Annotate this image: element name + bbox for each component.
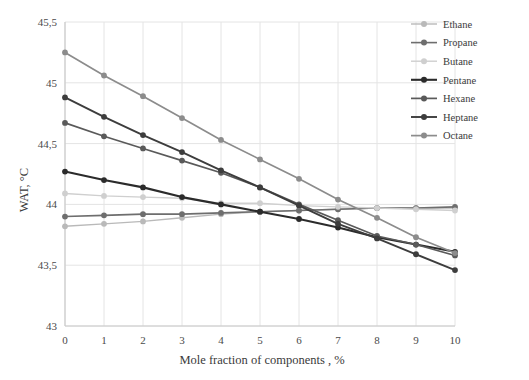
legend-swatch-marker bbox=[421, 114, 427, 120]
data-point bbox=[413, 242, 419, 248]
data-point bbox=[62, 94, 68, 100]
legend-label: Hexane bbox=[443, 93, 475, 104]
y-tick-label: 44 bbox=[46, 198, 58, 210]
data-point bbox=[257, 200, 263, 206]
data-point bbox=[257, 209, 263, 215]
x-tick-label: 5 bbox=[257, 334, 263, 346]
x-axis-title: Mole fraction of components , % bbox=[179, 353, 344, 367]
data-point bbox=[140, 219, 146, 225]
legend-label: Propane bbox=[443, 37, 478, 48]
data-point bbox=[413, 251, 419, 257]
legend-swatch-marker bbox=[421, 40, 427, 46]
y-axis-title: WAT, °C bbox=[17, 168, 31, 212]
legend-swatch-marker bbox=[421, 58, 427, 64]
data-point bbox=[218, 167, 224, 173]
x-tick-label: 0 bbox=[62, 334, 68, 346]
data-point bbox=[101, 133, 107, 139]
legend-label: Octane bbox=[443, 130, 473, 141]
data-point bbox=[140, 211, 146, 217]
data-point bbox=[179, 211, 185, 217]
chart-container: 4343,54444,54545,5 012345678910 EthanePr… bbox=[0, 0, 529, 380]
x-tick-label: 10 bbox=[450, 334, 462, 346]
y-tick-label: 44,5 bbox=[38, 138, 58, 150]
data-point bbox=[101, 177, 107, 183]
data-point bbox=[374, 205, 380, 211]
legend-swatch-marker bbox=[421, 95, 427, 101]
legend-label: Heptane bbox=[443, 112, 478, 123]
data-point bbox=[179, 115, 185, 121]
data-point bbox=[62, 50, 68, 56]
data-point bbox=[62, 169, 68, 175]
y-tick-label: 45 bbox=[46, 77, 58, 89]
data-point bbox=[452, 267, 458, 273]
data-point bbox=[140, 146, 146, 152]
legend-label: Pentane bbox=[443, 75, 477, 86]
x-tick-label: 1 bbox=[101, 334, 107, 346]
data-point bbox=[452, 208, 458, 214]
y-tick-label: 45,5 bbox=[38, 16, 58, 28]
legend-swatch-marker bbox=[421, 133, 427, 139]
x-tick-label: 6 bbox=[296, 334, 302, 346]
line-chart: 4343,54444,54545,5 012345678910 EthanePr… bbox=[0, 0, 529, 380]
data-point bbox=[296, 203, 302, 209]
data-point bbox=[374, 236, 380, 242]
legend-label: Ethane bbox=[443, 19, 472, 30]
data-point bbox=[101, 114, 107, 120]
data-point bbox=[101, 221, 107, 227]
x-tick-label: 9 bbox=[413, 334, 419, 346]
legend-swatch-marker bbox=[421, 21, 427, 27]
data-point bbox=[413, 234, 419, 240]
data-point bbox=[140, 194, 146, 200]
data-point bbox=[296, 216, 302, 222]
data-point bbox=[101, 73, 107, 79]
data-point bbox=[101, 193, 107, 199]
x-tick-label: 3 bbox=[179, 334, 185, 346]
data-point bbox=[62, 191, 68, 197]
data-point bbox=[179, 158, 185, 164]
legend-swatch-marker bbox=[421, 77, 427, 83]
legend-label: Butane bbox=[443, 56, 473, 67]
data-point bbox=[101, 212, 107, 218]
data-point bbox=[62, 120, 68, 126]
data-point bbox=[218, 202, 224, 208]
data-point bbox=[374, 215, 380, 221]
data-point bbox=[257, 157, 263, 163]
data-point bbox=[62, 214, 68, 220]
data-point bbox=[179, 194, 185, 200]
data-point bbox=[179, 149, 185, 155]
x-tick-label: 7 bbox=[335, 334, 341, 346]
data-point bbox=[62, 223, 68, 229]
data-point bbox=[140, 184, 146, 190]
data-point bbox=[335, 204, 341, 210]
x-tick-label: 8 bbox=[374, 334, 380, 346]
y-tick-label: 43 bbox=[46, 320, 58, 332]
data-point bbox=[296, 176, 302, 182]
data-point bbox=[335, 197, 341, 203]
data-point bbox=[140, 132, 146, 138]
data-point bbox=[452, 250, 458, 256]
data-point bbox=[218, 210, 224, 216]
y-tick-label: 43,5 bbox=[38, 259, 58, 271]
data-point bbox=[140, 93, 146, 99]
x-tick-label: 2 bbox=[140, 334, 146, 346]
data-point bbox=[335, 221, 341, 227]
data-point bbox=[257, 184, 263, 190]
data-point bbox=[413, 206, 419, 212]
data-point bbox=[218, 137, 224, 143]
x-tick-label: 4 bbox=[218, 334, 224, 346]
